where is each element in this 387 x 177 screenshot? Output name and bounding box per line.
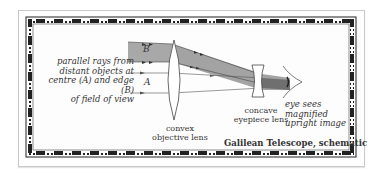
eyepiece-lens-label: concave eyepiece lens [229,106,293,124]
eye-label-line-2: upright image [285,119,365,129]
rays-description-line-4: of field of view [48,95,134,105]
eye-label: eye sees magnified upright image [285,100,365,129]
eye-label-line-1: eye sees magnified [285,100,365,119]
rays-description-line-3: centre (A) and edge (B) [48,76,134,95]
objective-lens-label-line-2: objective lens [150,133,210,142]
eyepiece-lens-label-line-2: eyepiece lens [229,115,293,124]
diagram-title: Galilean Telescope, schematic [224,139,367,148]
rays-description-label: parallel rays from distant objects at ce… [48,57,134,105]
ray-beam-b [128,42,290,90]
objective-lens-label-line-1: convex [150,124,210,133]
objective-lens-label: convex objective lens [150,124,210,142]
ray-b-label: B [143,45,150,54]
eyepiece-lens-label-line-1: concave [229,106,293,115]
ray-a-label: A [144,78,151,87]
